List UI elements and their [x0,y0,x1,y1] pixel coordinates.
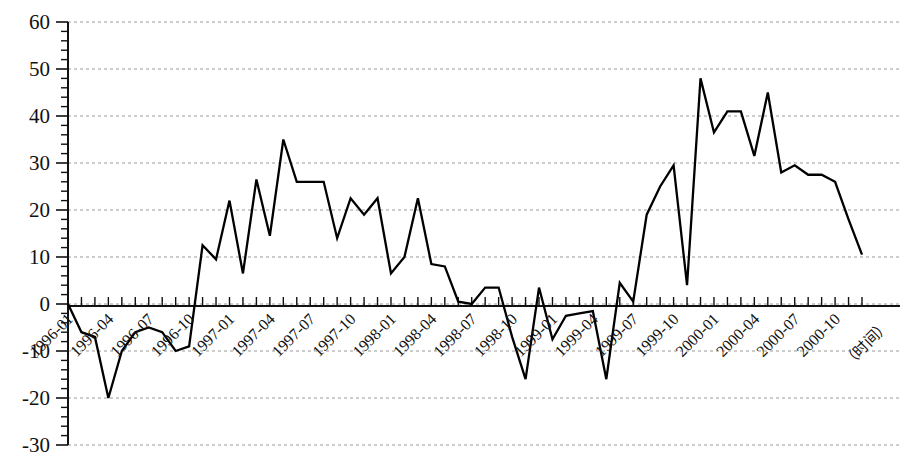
x-axis-tick-labels: 1996-011996-041996-071996-101997-011997-… [26,310,843,360]
x-tick-label: 1998-04 [390,310,440,360]
y-tick-label: 60 [29,10,50,34]
x-tick-label: 1997-07 [269,310,319,360]
x-axis-ticks [68,297,862,306]
y-tick-label: -30 [22,433,50,457]
y-tick-label: 50 [29,57,50,81]
y-axis-tick-labels: 6050403020100-10-20-30 [22,10,50,457]
chart-container: 6050403020100-10-20-30 1996-011996-04199… [0,0,905,468]
line-chart: 6050403020100-10-20-30 1996-011996-04199… [0,0,905,468]
x-tick-label: 2000-04 [713,310,763,360]
x-tick-label: 1999-07 [592,310,642,360]
y-tick-label: 30 [29,151,50,175]
y-tick-label: 0 [40,292,51,316]
series-polyline [68,78,862,398]
y-tick-label: -20 [22,386,50,410]
x-axis-caption: （时间） [839,317,893,371]
x-tick-label: 1999-10 [632,310,682,360]
x-tick-label: 1997-10 [309,310,359,360]
data-series [68,78,862,398]
x-tick-label: 1997-04 [228,310,278,360]
gridlines [68,22,900,445]
y-axis-ticks [56,22,68,445]
axis-frame [68,22,900,445]
x-axis-caption-text: （时间） [839,317,893,371]
x-tick-label: 1998-07 [430,310,480,360]
x-tick-label: 2000-01 [672,310,722,360]
x-tick-label: 1999-04 [551,310,601,360]
y-tick-label: 10 [29,245,50,269]
x-tick-label: 1996-07 [107,310,157,360]
x-tick-label: 2000-07 [753,310,803,360]
x-tick-label: 1997-01 [188,310,238,360]
y-tick-label: 40 [29,104,50,128]
x-tick-label: 1998-01 [349,310,399,360]
y-tick-label: 20 [29,198,50,222]
x-tick-label: 2000-10 [793,310,843,360]
